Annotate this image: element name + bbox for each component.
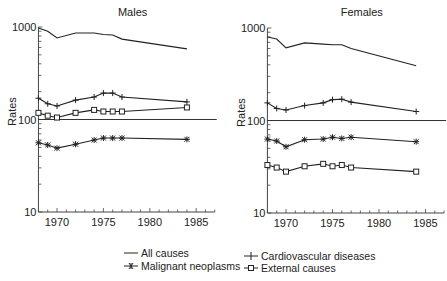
line-icon xyxy=(123,249,139,257)
legend-label: All causes xyxy=(141,247,189,259)
square-marker-icon xyxy=(243,264,259,272)
legend-item-external-causes: External causes xyxy=(243,262,336,274)
legend-item-all-causes: All causes xyxy=(123,247,189,259)
legend-item-malignant-neoplasms: Malignant neoplasms xyxy=(123,260,240,272)
plus-marker-icon xyxy=(243,252,259,260)
legend-label: Cardiovascular diseases xyxy=(261,250,375,262)
chart-legend: All causes Malignant neoplasms Cardiovas… xyxy=(0,0,447,281)
legend-item-cardiovascular-diseases: Cardiovascular diseases xyxy=(243,250,375,262)
legend-label: External causes xyxy=(261,262,336,274)
star-marker-icon xyxy=(123,262,139,270)
legend-label: Malignant neoplasms xyxy=(141,260,240,272)
